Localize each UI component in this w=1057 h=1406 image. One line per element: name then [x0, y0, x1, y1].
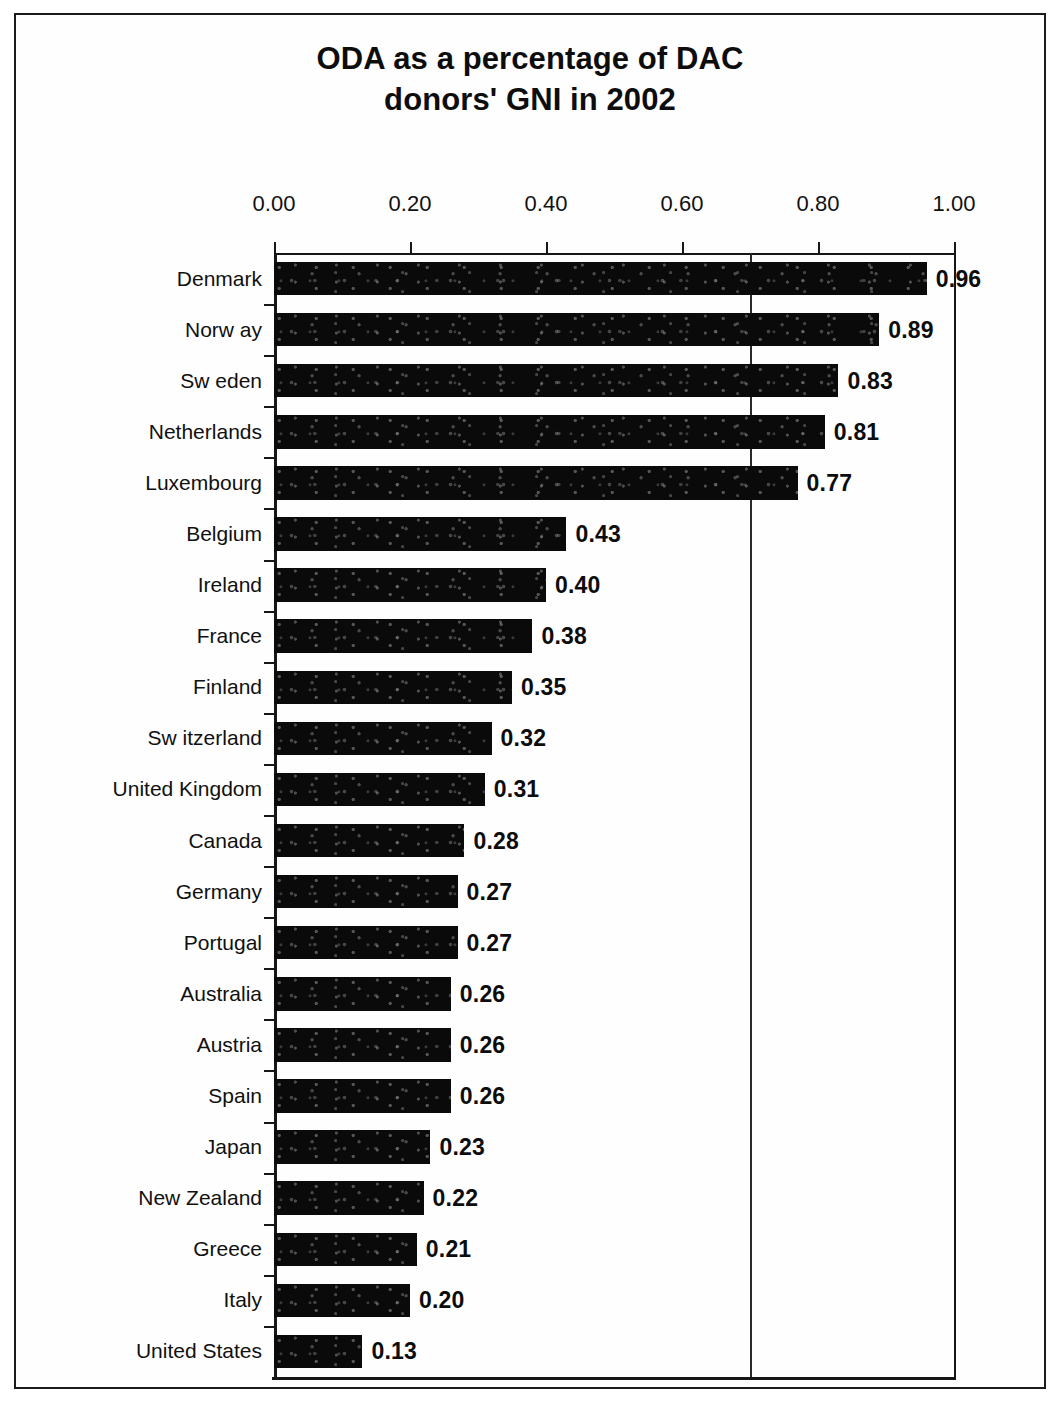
y-axis-category-label: France: [197, 624, 262, 648]
y-axis-tick-mark: [264, 662, 274, 664]
bar[interactable]: [274, 671, 512, 704]
bar[interactable]: [274, 875, 458, 908]
bar[interactable]: [274, 824, 464, 857]
x-axis-tick-mark: [274, 242, 276, 253]
bar[interactable]: [274, 415, 825, 448]
bar-row[interactable]: 0.23: [274, 1130, 954, 1163]
y-axis-category-label: Spain: [208, 1084, 262, 1108]
x-axis-tick-label: 0.20: [389, 191, 432, 217]
bar-row[interactable]: 0.96: [274, 262, 954, 295]
bar-value-label: 0.96: [936, 265, 982, 292]
bar-value-label: 0.13: [371, 1338, 417, 1365]
bar[interactable]: [274, 1079, 451, 1112]
y-axis-category-label: Germany: [176, 880, 262, 904]
y-axis-category-label: Norw ay: [185, 318, 262, 342]
bar-value-label: 0.89: [888, 316, 934, 343]
bar[interactable]: [274, 926, 458, 959]
bar-value-label: 0.83: [847, 367, 893, 394]
y-axis-category-label: Finland: [193, 675, 262, 699]
bar-value-label: 0.20: [419, 1287, 465, 1314]
bar[interactable]: [274, 773, 485, 806]
y-axis-tick-mark: [264, 560, 274, 562]
y-axis-tick-mark: [264, 968, 274, 970]
bar[interactable]: [274, 1028, 451, 1061]
plot-area: 0.960.890.830.810.770.430.400.380.350.32…: [274, 253, 954, 1377]
y-axis-category-label: Netherlands: [149, 420, 262, 444]
bar-value-label: 0.26: [460, 980, 506, 1007]
bar[interactable]: [274, 466, 798, 499]
bar-row[interactable]: 0.38: [274, 619, 954, 652]
bar[interactable]: [274, 722, 492, 755]
bar-row[interactable]: 0.27: [274, 926, 954, 959]
bar-row[interactable]: 0.89: [274, 313, 954, 346]
bar-value-label: 0.77: [807, 469, 853, 496]
chart-outer-border: ODA as a percentage of DAC donors' GNI i…: [14, 13, 1046, 1389]
bar-row[interactable]: 0.28: [274, 824, 954, 857]
bar-row[interactable]: 0.26: [274, 1079, 954, 1112]
bar-row[interactable]: 0.22: [274, 1181, 954, 1214]
bar-value-label: 0.21: [426, 1236, 472, 1263]
x-axis-tick-label: 0.00: [253, 191, 296, 217]
axis-line-top: [274, 253, 954, 255]
bar[interactable]: [274, 1335, 362, 1368]
bar[interactable]: [274, 568, 546, 601]
y-axis-category-label: Ireland: [198, 573, 262, 597]
x-axis-tick-labels: 0.000.200.400.600.801.00: [16, 191, 1044, 221]
x-axis-tick-label: 0.60: [661, 191, 704, 217]
y-axis-category-label: New Zealand: [138, 1186, 262, 1210]
bar[interactable]: [274, 517, 566, 550]
y-axis-tick-mark: [264, 764, 274, 766]
chart-title: ODA as a percentage of DAC donors' GNI i…: [16, 39, 1044, 121]
y-axis-tick-mark: [264, 457, 274, 459]
bar[interactable]: [274, 1130, 430, 1163]
bar[interactable]: [274, 1181, 424, 1214]
bar[interactable]: [274, 1233, 417, 1266]
y-axis-tick-mark: [264, 304, 274, 306]
bar-value-label: 0.31: [494, 776, 540, 803]
bar[interactable]: [274, 977, 451, 1010]
bar[interactable]: [274, 262, 927, 295]
bar-row[interactable]: 0.26: [274, 1028, 954, 1061]
bar-row[interactable]: 0.20: [274, 1284, 954, 1317]
bar-value-label: 0.32: [501, 725, 547, 752]
y-axis-category-label: Sw eden: [180, 369, 262, 393]
bar-row[interactable]: 0.31: [274, 773, 954, 806]
bar-row[interactable]: 0.27: [274, 875, 954, 908]
bar-value-label: 0.81: [834, 418, 880, 445]
chart-page: ODA as a percentage of DAC donors' GNI i…: [0, 0, 1057, 1406]
y-axis-category-label: United States: [136, 1339, 262, 1363]
bar[interactable]: [274, 1284, 410, 1317]
y-axis-category-label: Denmark: [177, 267, 262, 291]
y-axis-tick-mark: [264, 1326, 274, 1328]
x-axis-tick-label: 0.40: [525, 191, 568, 217]
axis-line-right: [954, 253, 956, 1377]
y-axis-category-label: Portugal: [184, 931, 262, 955]
chart-title-line-2: donors' GNI in 2002: [16, 80, 1044, 121]
y-axis-category-label: Luxembourg: [145, 471, 262, 495]
bar-row[interactable]: 0.13: [274, 1335, 954, 1368]
bar-row[interactable]: 0.81: [274, 415, 954, 448]
y-axis-tick-mark: [264, 1224, 274, 1226]
y-axis-tick-mark: [264, 1019, 274, 1021]
bar-row[interactable]: 0.83: [274, 364, 954, 397]
x-axis-tick-mark: [410, 242, 412, 253]
bar[interactable]: [274, 619, 532, 652]
x-axis-tick-label: 1.00: [933, 191, 976, 217]
bar[interactable]: [274, 313, 879, 346]
y-axis-category-label: Canada: [188, 829, 262, 853]
bar-row[interactable]: 0.21: [274, 1233, 954, 1266]
bar-row[interactable]: 0.40: [274, 568, 954, 601]
bar-row[interactable]: 0.43: [274, 517, 954, 550]
y-axis-category-labels: DenmarkNorw aySw edenNetherlandsLuxembou…: [16, 253, 262, 1377]
bar-row[interactable]: 0.77: [274, 466, 954, 499]
y-axis-category-label: Austria: [197, 1033, 262, 1057]
bar[interactable]: [274, 364, 838, 397]
y-axis-tick-mark: [264, 815, 274, 817]
y-axis-category-label: Sw itzerland: [148, 726, 262, 750]
y-axis-tick-mark: [264, 1173, 274, 1175]
bar-row[interactable]: 0.32: [274, 722, 954, 755]
y-axis-tick-mark: [264, 611, 274, 613]
bar-row[interactable]: 0.35: [274, 671, 954, 704]
bar-row[interactable]: 0.26: [274, 977, 954, 1010]
bar-value-label: 0.40: [555, 572, 601, 599]
